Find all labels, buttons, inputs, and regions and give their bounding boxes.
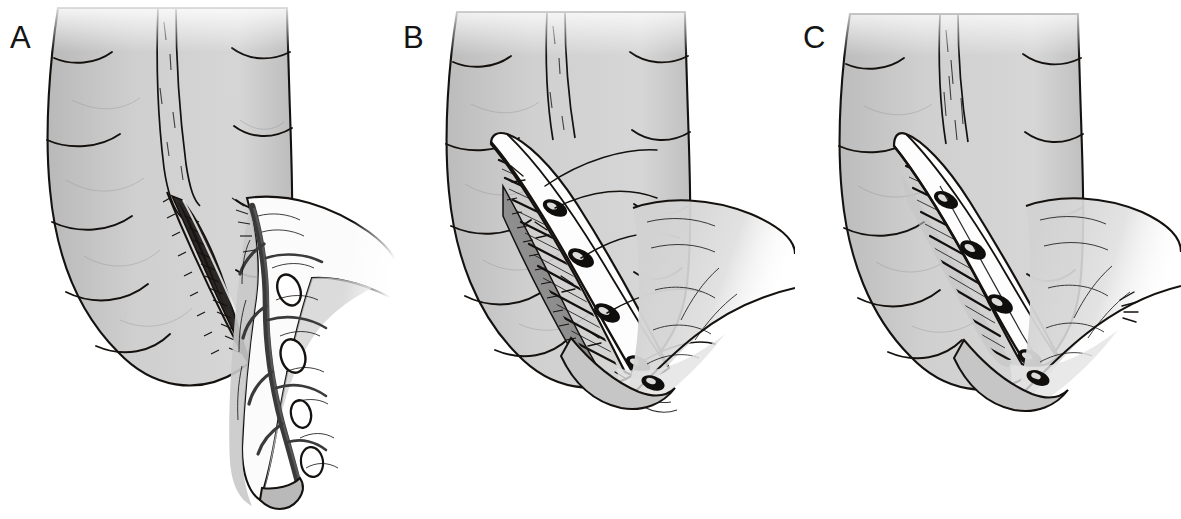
figure-root: A [0, 0, 1181, 519]
panel-b: B [395, 0, 795, 519]
panel-a: A [0, 0, 400, 519]
mesentery-fan-b [617, 200, 795, 412]
panel-b-illustration [395, 0, 795, 519]
mesentery-fan-c [1010, 198, 1181, 405]
panel-a-illustration [0, 0, 400, 519]
top-fade-a [0, 0, 400, 52]
top-fade-b [395, 0, 795, 56]
panel-c: C [790, 0, 1181, 519]
panel-c-illustration [790, 0, 1181, 519]
panel-label-b: B [403, 22, 424, 53]
panel-label-a: A [10, 22, 31, 53]
top-fade-c [790, 0, 1181, 56]
mesentery-a [229, 180, 400, 509]
panel-label-c: C [803, 22, 825, 53]
